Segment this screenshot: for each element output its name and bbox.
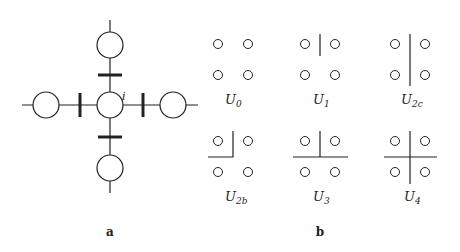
center-node-label: i <box>122 90 126 103</box>
panel-a <box>22 20 198 193</box>
panel-b-label: b <box>316 225 324 239</box>
panel-a-label: a <box>106 225 114 239</box>
config-U2c <box>391 34 430 86</box>
figure: i a <box>0 0 460 252</box>
node-right <box>160 92 186 118</box>
node-bottom <box>97 155 123 181</box>
config-U1 <box>301 34 340 80</box>
config-U2b <box>208 131 253 177</box>
label-U2b: U2b <box>225 189 248 206</box>
node-center <box>97 92 123 118</box>
config-U4 <box>384 131 437 184</box>
config-U0 <box>214 40 253 80</box>
label-U1: U1 <box>313 92 330 109</box>
label-U4: U4 <box>404 189 421 206</box>
node-left <box>33 92 59 118</box>
config-U3 <box>293 131 348 177</box>
label-U0: U0 <box>225 92 242 109</box>
panel-b <box>208 34 437 184</box>
node-top <box>97 32 123 58</box>
label-U2c: U2c <box>401 92 423 109</box>
label-U3: U3 <box>313 189 330 206</box>
